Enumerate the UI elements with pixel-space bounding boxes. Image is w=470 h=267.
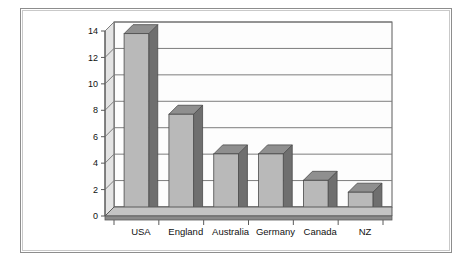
bar-side-face: [149, 25, 158, 216]
plot-left-wall: [105, 22, 114, 216]
xtick-label-england: England: [168, 226, 203, 237]
ytick-label-0: 0: [93, 211, 98, 221]
xtick-label-usa: USA: [131, 226, 151, 237]
bar-australia: [214, 145, 248, 216]
bar-germany: [259, 145, 293, 216]
bar-usa: [124, 25, 158, 216]
ytick-label-6: 6: [93, 132, 98, 142]
plot-floor-lip: [105, 216, 392, 220]
ytick-label-4: 4: [93, 158, 98, 168]
ytick-label-10: 10: [88, 79, 98, 89]
bar-chart: 02468101214USAEnglandAustraliaGermanyCan…: [0, 0, 470, 267]
xtick-label-australia: Australia: [212, 226, 250, 237]
xtick-label-nz: NZ: [359, 226, 372, 237]
bar-chart-svg: 02468101214USAEnglandAustraliaGermanyCan…: [0, 0, 470, 267]
xtick-label-canada: Canada: [304, 226, 338, 237]
ytick-label-2: 2: [93, 185, 98, 195]
bar-side-face: [194, 105, 203, 216]
xtick-label-germany: Germany: [256, 226, 295, 237]
bar-front-face: [169, 114, 194, 216]
ytick-label-8: 8: [93, 105, 98, 115]
ytick-label-12: 12: [88, 53, 98, 63]
ytick-label-14: 14: [88, 26, 98, 36]
bar-front-face: [124, 34, 149, 216]
bar-side-face: [238, 145, 247, 216]
plot-floor: [105, 207, 392, 216]
bar-england: [169, 105, 203, 216]
bar-side-face: [283, 145, 292, 216]
